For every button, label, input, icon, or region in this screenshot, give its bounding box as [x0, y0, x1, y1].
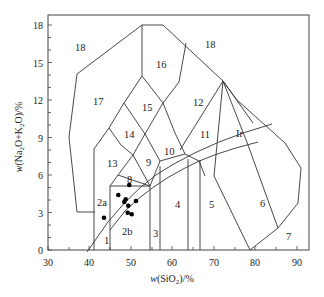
chart-svg: 30 40 50 60 70 80 90 0 3 6 9 12 15 18 w(… [0, 0, 324, 297]
svg-text:17: 17 [93, 96, 104, 107]
y-axis-title: w(Na2O+K2O)/% [13, 102, 26, 172]
x-tick-labels: 30 40 50 60 70 80 90 [43, 257, 302, 268]
svg-text:18: 18 [205, 39, 216, 50]
svg-text:11: 11 [200, 129, 210, 140]
svg-text:1: 1 [104, 235, 109, 246]
svg-text:15: 15 [33, 58, 43, 69]
y-ticks [48, 25, 52, 250]
svg-text:2b: 2b [122, 226, 133, 237]
field-labels: 1 2a 2b 3 4 5 6 7 8 9 10 11 12 13 14 15 … [75, 39, 291, 246]
svg-text:4: 4 [175, 199, 181, 210]
svg-text:16: 16 [156, 59, 167, 70]
svg-text:Ir: Ir [236, 128, 243, 139]
svg-text:6: 6 [38, 170, 43, 181]
svg-text:5: 5 [209, 199, 214, 210]
plot-frame [48, 15, 309, 250]
svg-text:13: 13 [107, 158, 118, 169]
svg-text:12: 12 [193, 97, 204, 108]
svg-text:10: 10 [164, 146, 175, 157]
y-tick-labels: 0 3 6 9 12 15 18 [33, 20, 43, 256]
svg-text:18: 18 [75, 42, 86, 53]
svg-text:60: 60 [167, 257, 177, 268]
svg-text:30: 30 [43, 257, 53, 268]
sample-points [102, 183, 139, 220]
svg-text:70: 70 [209, 257, 219, 268]
x-axis-title: w(SiO2)/% [150, 273, 194, 286]
x-ticks [48, 246, 297, 250]
svg-text:9: 9 [146, 157, 151, 168]
tas-diagram: 30 40 50 60 70 80 90 0 3 6 9 12 15 18 w(… [0, 0, 324, 297]
svg-text:7: 7 [286, 231, 291, 242]
svg-text:90: 90 [292, 257, 302, 268]
svg-text:2a: 2a [97, 197, 107, 208]
svg-text:3: 3 [38, 208, 43, 219]
svg-text:40: 40 [84, 257, 94, 268]
svg-text:6: 6 [260, 198, 265, 209]
svg-text:9: 9 [38, 133, 43, 144]
svg-text:3: 3 [153, 228, 158, 239]
svg-text:12: 12 [33, 95, 43, 106]
svg-text:50: 50 [126, 257, 136, 268]
svg-text:0: 0 [38, 245, 43, 256]
svg-text:14: 14 [124, 129, 135, 140]
svg-text:80: 80 [250, 257, 260, 268]
svg-text:15: 15 [142, 102, 153, 113]
svg-text:18: 18 [33, 20, 43, 31]
